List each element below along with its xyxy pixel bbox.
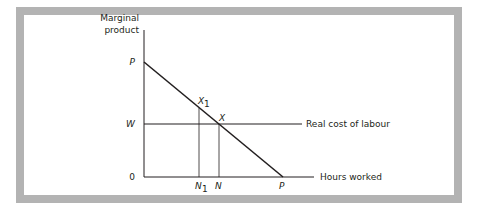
n1-label: N: [195, 181, 202, 191]
point-x-label: X: [218, 113, 226, 123]
y-intercept-label: P: [130, 57, 136, 67]
n-label: N: [215, 181, 222, 191]
y-axis-label-line2: product: [104, 25, 139, 35]
point-x1-subscript: 1: [204, 99, 210, 109]
marginal-product-diagram: Marginal product P W 0 X 1 X N 1 N P Rea…: [0, 0, 483, 217]
wage-label: W: [126, 119, 136, 129]
y-axis-label-line1: Marginal: [100, 13, 139, 23]
n1-subscript: 1: [202, 184, 208, 194]
x-intercept-label: P: [279, 181, 285, 191]
marginal-product-line: [144, 62, 283, 177]
x-axis-label: Hours worked: [320, 172, 382, 182]
wage-line-label: Real cost of labour: [306, 119, 390, 129]
origin-label: 0: [129, 172, 135, 182]
